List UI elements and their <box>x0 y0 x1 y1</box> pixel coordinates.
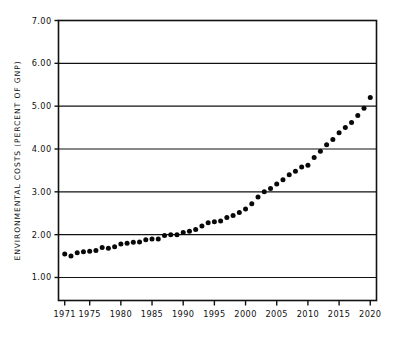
data-point <box>100 245 105 250</box>
y-tick-label: 3.00 <box>32 187 52 197</box>
data-point <box>330 137 335 142</box>
chart-figure: 7.006.005.004.003.002.001.00 19711975198… <box>0 0 397 337</box>
y-tick-label: 2.00 <box>32 230 52 240</box>
x-tick-label: 2015 <box>328 309 350 319</box>
data-point <box>231 213 236 218</box>
y-tick-label: 7.00 <box>32 16 52 26</box>
data-point <box>199 224 204 229</box>
data-point <box>156 236 161 241</box>
data-point <box>349 120 354 125</box>
data-point <box>355 113 360 118</box>
data-point <box>324 142 329 147</box>
data-point <box>118 242 123 247</box>
data-point <box>93 248 98 253</box>
y-tick-label: 6.00 <box>32 58 52 68</box>
data-point <box>162 233 167 238</box>
x-tick-label: 1975 <box>78 309 100 319</box>
data-point <box>318 149 323 154</box>
data-point <box>81 249 86 254</box>
x-tick-label: 2020 <box>359 309 381 319</box>
data-point <box>87 249 92 254</box>
data-point <box>280 177 285 182</box>
x-tick-label: 2005 <box>266 309 288 319</box>
chart-background <box>0 0 397 337</box>
data-point <box>68 254 73 259</box>
x-tick-label: 1980 <box>110 309 132 319</box>
data-point <box>337 130 342 135</box>
data-point <box>112 244 117 249</box>
data-point <box>212 219 217 224</box>
data-point <box>168 232 173 237</box>
data-point <box>125 241 130 246</box>
data-point <box>143 237 148 242</box>
data-point <box>181 230 186 235</box>
x-tick-label: 1985 <box>141 309 163 319</box>
data-point <box>62 251 67 256</box>
x-tick-label: 2000 <box>234 309 256 319</box>
data-point <box>368 95 373 100</box>
environmental-costs-scatter-chart: 7.006.005.004.003.002.001.00 19711975198… <box>0 0 397 337</box>
data-point <box>256 194 261 199</box>
x-tick-label: 2010 <box>297 309 319 319</box>
data-point <box>249 201 254 206</box>
data-point <box>362 106 367 111</box>
data-point <box>312 155 317 160</box>
y-tick-label: 1.00 <box>32 272 52 282</box>
data-point <box>343 125 348 130</box>
data-point <box>293 169 298 174</box>
data-point <box>243 206 248 211</box>
y-axis-title: ENVIRONMENTAL COSTS (PERCENT OF GNP) <box>13 60 22 260</box>
data-point <box>237 210 242 215</box>
data-point <box>218 218 223 223</box>
y-tick-label: 5.00 <box>32 101 52 111</box>
data-point <box>174 232 179 237</box>
data-point <box>305 163 310 168</box>
y-tick-label: 4.00 <box>32 144 52 154</box>
data-point <box>287 172 292 177</box>
data-point <box>193 227 198 232</box>
data-point <box>224 215 229 220</box>
data-point <box>106 246 111 251</box>
x-tick-label: 1995 <box>203 309 225 319</box>
y-axis-title-text: ENVIRONMENTAL COSTS (PERCENT OF GNP) <box>13 60 22 260</box>
data-point <box>262 189 267 194</box>
data-point <box>206 220 211 225</box>
data-point <box>299 164 304 169</box>
data-point <box>268 186 273 191</box>
x-tick-label: 1990 <box>172 309 194 319</box>
data-point <box>75 250 80 255</box>
data-point <box>187 229 192 234</box>
x-tick-label: 1971 <box>54 309 76 319</box>
data-point <box>131 240 136 245</box>
data-point <box>150 236 155 241</box>
data-point <box>137 239 142 244</box>
data-point <box>274 182 279 187</box>
